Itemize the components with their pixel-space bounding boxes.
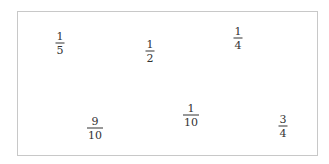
fraction-denominator: 4 <box>279 128 288 139</box>
fraction-numerator: 1 <box>56 31 65 42</box>
fraction-numerator: 1 <box>187 103 196 114</box>
fraction-denominator: 4 <box>234 40 243 51</box>
fraction-one-half: 1 2 <box>146 39 155 64</box>
fraction-one-fifth: 1 5 <box>56 31 65 56</box>
fraction-denominator: 10 <box>87 130 103 141</box>
fraction-one-tenth: 1 10 <box>183 103 199 128</box>
fraction-numerator: 3 <box>279 114 288 125</box>
fraction-one-quarter: 1 4 <box>234 26 243 51</box>
fraction-nine-tenths: 9 10 <box>87 116 103 141</box>
fraction-denominator: 10 <box>183 117 199 128</box>
fraction-numerator: 9 <box>91 116 100 127</box>
fraction-denominator: 2 <box>146 53 155 64</box>
fraction-three-quarters: 3 4 <box>279 114 288 139</box>
fraction-numerator: 1 <box>146 39 155 50</box>
fraction-numerator: 1 <box>234 26 243 37</box>
fraction-denominator: 5 <box>56 45 65 56</box>
